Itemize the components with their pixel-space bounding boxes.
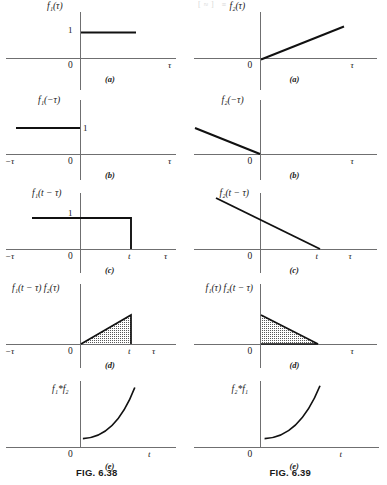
origin-label: 0 [68, 347, 73, 357]
x-axis [6, 344, 176, 345]
x-axis-label: τ [152, 347, 155, 356]
origin-label: 0 [68, 61, 73, 71]
panel-638-e: f₁*f₂ 0 t (e) FIG. 6.38 [0, 377, 194, 485]
x-left-label: −τ [5, 157, 14, 166]
y-axis [80, 193, 81, 273]
figure-column-639: f₂(τ) 0 τ (a) f₂(−τ) 0 τ (b) f₂(t − τ) 0 [194, 0, 387, 485]
panel-639-c: f₂(t − τ) 0 t τ (c) [194, 187, 387, 282]
figure-caption: FIG. 6.38 [0, 467, 194, 478]
value-label-one: 1 [83, 124, 88, 133]
origin-label: 0 [248, 157, 253, 167]
panel-638-b: f₁(−τ) 0 1 −τ τ (b) [0, 92, 194, 187]
panel-tag: (d) [105, 360, 115, 370]
x-axis-label: τ [168, 157, 171, 166]
y-axis [260, 193, 261, 273]
plot-conv-638 [0, 377, 194, 472]
panel-tag: (d) [290, 360, 300, 370]
origin-label: 0 [248, 347, 253, 357]
x-axis [194, 58, 378, 59]
panel-y-label: f₂(t − τ) [220, 189, 249, 199]
x-axis [194, 154, 378, 155]
x-axis [6, 447, 176, 448]
x-axis [194, 447, 380, 448]
y-axis [80, 100, 81, 180]
x-left-label: −τ [5, 347, 14, 356]
panel-y-label: f₁(t − τ) f₂(τ) [12, 284, 60, 294]
x-axis [194, 344, 378, 345]
origin-label: 0 [68, 252, 73, 262]
origin-label: 0 [248, 450, 253, 460]
panel-y-label: f₁(τ) f₂(t − τ) [206, 284, 254, 294]
origin-label: 0 [248, 61, 253, 71]
panel-639-b: f₂(−τ) 0 τ (b) [194, 92, 387, 187]
x-axis-label: t [340, 450, 343, 459]
plot-f1-t-minus-tau [0, 187, 194, 282]
panel-y-label: f₁(τ) [47, 2, 63, 12]
panel-tag: (c) [105, 265, 114, 275]
panel-639-d: f₁(τ) f₂(t − τ) 0 τ (d) [194, 282, 387, 377]
origin-label: 0 [68, 450, 73, 460]
panel-y-label: f₂*f₁ [232, 385, 249, 395]
origin-label: 0 [68, 157, 73, 167]
panel-y-label: f₁*f₂ [52, 385, 69, 395]
page-top-fragment: [≈] ≡ [198, 0, 278, 9]
y-axis [80, 381, 81, 447]
panel-y-label: f₁(−τ) [38, 96, 60, 106]
panel-638-a: f₁(τ) 0 1 τ (a) [0, 0, 194, 92]
panel-tag: (a) [290, 74, 300, 84]
value-label-one: 1 [68, 26, 73, 35]
convolution-figure-sheet: f₁(τ) 0 1 τ (a) f₁(−τ) 0 1 −τ τ (b) [0, 0, 387, 485]
y-axis [260, 284, 261, 368]
figure-caption: FIG. 6.39 [194, 467, 387, 478]
x-axis-label: τ [168, 61, 171, 70]
x-axis-label: τ [351, 157, 354, 166]
panel-639-e: f₂*f₁ 0 t (e) FIG. 6.39 [194, 377, 387, 485]
panel-639-a: f₂(τ) 0 τ (a) [194, 0, 387, 92]
x-axis-label: τ [351, 347, 354, 356]
panel-tag: (a) [105, 74, 115, 84]
plot-f1-neg-tau [0, 92, 194, 187]
x-axis-label: τ [349, 252, 352, 261]
figure-column-638: f₁(τ) 0 1 τ (a) f₁(−τ) 0 1 −τ τ (b) [0, 0, 194, 485]
value-label-one: 1 [68, 209, 73, 218]
x-left-label: −τ [5, 252, 14, 261]
y-axis [260, 12, 261, 90]
x-axis [194, 249, 378, 250]
x-axis-label: τ [164, 252, 167, 261]
panel-638-c: f₁(t − τ) 0 1 t −τ τ (c) [0, 187, 194, 282]
origin-label: 0 [248, 252, 253, 262]
plot-conv-639 [194, 377, 387, 472]
y-axis [260, 100, 261, 180]
panel-638-d: f₁(t − τ) f₂(τ) 0 t −τ τ (d) [0, 282, 194, 377]
plot-f1-tau [0, 0, 194, 95]
x-axis [6, 58, 176, 59]
x-axis-label: t [148, 450, 151, 459]
t-label: t [316, 252, 319, 261]
y-axis [260, 381, 261, 447]
x-axis [6, 249, 176, 250]
t-label: t [128, 252, 131, 261]
panel-y-label: f₂(−τ) [222, 96, 244, 106]
panel-tag: (b) [290, 170, 300, 180]
panel-tag: (c) [290, 265, 299, 275]
t-label: t [128, 347, 131, 356]
panel-y-label: f₁(t − τ) [32, 189, 61, 199]
y-axis [80, 284, 81, 368]
x-axis [6, 154, 176, 155]
panel-tag: (b) [105, 170, 115, 180]
x-axis-label: τ [351, 61, 354, 70]
y-axis [80, 12, 81, 90]
plot-product-638 [0, 282, 194, 377]
